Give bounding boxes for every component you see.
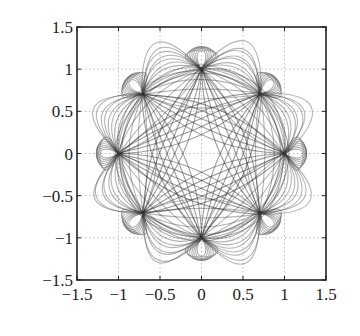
y-tick-label: −1 (55, 229, 73, 248)
x-tick-label: −1 (109, 285, 127, 304)
y-tick-label: −0.5 (42, 187, 73, 206)
x-tick-label: 1 (280, 285, 289, 304)
y-tick-labels: −1.5−1−0.500.511.5 (42, 18, 73, 290)
y-tick-label: 0.5 (52, 102, 73, 121)
y-tick-label: −1.5 (42, 271, 73, 290)
y-tick-label: 0 (65, 145, 74, 164)
chart: −1.5−1−0.500.511.5 −1.5−1−0.500.511.5 (0, 0, 360, 336)
x-tick-label: 0 (197, 285, 206, 304)
x-tick-label: 1.5 (315, 285, 336, 304)
x-tick-label: 0.5 (232, 285, 253, 304)
y-tick-label: 1.5 (52, 18, 73, 37)
x-tick-labels: −1.5−1−0.500.511.5 (62, 285, 337, 304)
x-tick-label: −0.5 (145, 285, 176, 304)
y-tick-label: 1 (65, 60, 74, 79)
curves (93, 41, 313, 265)
